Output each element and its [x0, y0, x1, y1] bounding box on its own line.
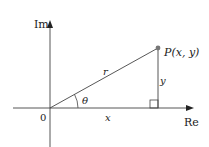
angle-arc — [75, 94, 79, 108]
radius-line — [50, 48, 158, 108]
horizontal-leg-label: x — [105, 112, 111, 123]
imaginary-axis-label: Im — [34, 18, 49, 31]
real-axis-arrow-icon — [186, 105, 194, 111]
right-angle-marker — [150, 100, 158, 108]
real-axis-label: Re — [184, 116, 199, 129]
vertical-leg-label: y — [159, 75, 166, 86]
point-p-marker — [156, 46, 161, 51]
angle-label: θ — [82, 95, 88, 106]
complex-plane-diagram: Im Re 0 P(x, y) r y x θ — [0, 0, 209, 147]
point-p-label: P(x, y) — [163, 46, 199, 59]
origin-label: 0 — [40, 112, 46, 123]
